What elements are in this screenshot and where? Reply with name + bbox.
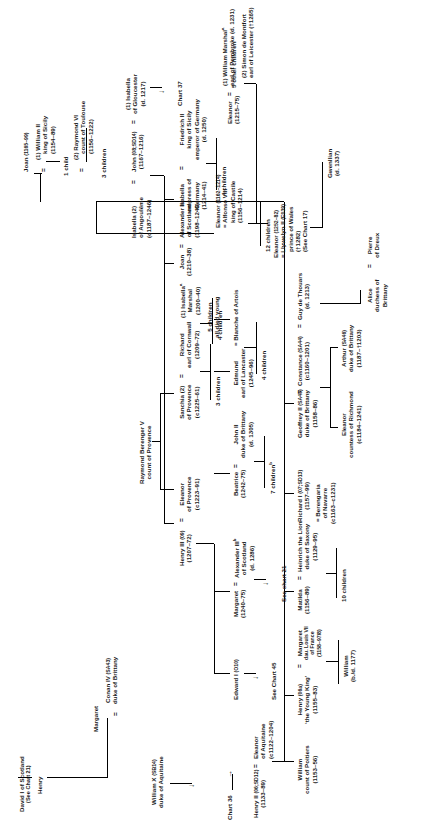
label-5-children-died-young: 5 children all died young (206, 296, 221, 338)
marriage-equals: = (366, 264, 373, 268)
marriage-equals: = (296, 576, 303, 580)
node-isabella-angouleme: Isabella (2) of Angoulême (c1187–1246) (130, 197, 152, 238)
connector (164, 523, 174, 524)
marriage-equals: = (112, 712, 119, 716)
down-arrow-icon: ↓ (252, 676, 260, 680)
node-raymond-vi: (2) Raymond VI count of Toulouse (1156–1… (72, 101, 94, 160)
marriage-equals: = (40, 168, 47, 172)
connector (260, 202, 261, 246)
marriage-equals: = (232, 582, 239, 586)
node-joan-sicily: Joan (1165–99) (22, 132, 29, 172)
connector (244, 83, 256, 84)
connector (336, 548, 337, 598)
node-isabella-germany: Isabella empress of Germany (1214–41) (178, 179, 207, 212)
sibling-bar (160, 394, 161, 490)
sibling-bar (330, 348, 331, 428)
node-isabella-gloucester: (1) Isabella of Gloucester (d. 1217) (124, 74, 146, 114)
node-john-ii-brittany: John II duke of Brittany (d. 1305) (232, 411, 254, 458)
connector (326, 573, 336, 574)
connector (150, 175, 164, 176)
connector (210, 344, 211, 400)
node-berengaria: = Berengaria of Navarre (c1163–c1231) (314, 482, 336, 524)
node-simon-de-montfort: (2) Simon de Montfort earl of Leicester … (240, 7, 255, 78)
node-conan-iv: Conan IV (SA43) duke of Brittany (104, 657, 119, 704)
node-henry-son-david: Henry (36, 776, 43, 794)
connector (216, 138, 217, 190)
connector (160, 393, 174, 394)
connector (46, 161, 60, 162)
node-margaret-conan: Margaret (92, 706, 99, 732)
node-henry-iii: Henry III (09) (1207–72) (178, 531, 193, 566)
connector (284, 403, 294, 404)
connector (310, 227, 322, 228)
connector (320, 387, 330, 388)
node-heinrich-lion: Heinrich the Lion duke of Saxony (1129–9… (296, 521, 318, 572)
down-arrow-icon: ↓ (158, 90, 166, 94)
node-pierre-dreux: Pierre of Dreux (366, 233, 381, 258)
label-3-children-sanchia: 3 children (214, 377, 221, 406)
connector (47, 777, 107, 778)
connector (254, 579, 266, 580)
connector (326, 661, 338, 662)
genealogy-chart: David I of Scotland (See Chart 21) Henry… (0, 0, 447, 824)
connector (152, 441, 160, 442)
node-william-poitiers: William count of Poitiers (1153–56) (296, 745, 318, 794)
connector (150, 87, 162, 88)
node-gwenllian: Gwenllian (d. 1337) (326, 149, 341, 178)
connector (330, 427, 338, 428)
connector (86, 128, 87, 162)
node-henry-young-king: Henry (06a) ‘the Young King’ (1155–83) (296, 675, 318, 724)
marriage-equals: = (296, 390, 303, 394)
node-eleanor-1252: Eleanor (1252–82) = Llywelyn II (E039) p… (272, 204, 309, 258)
connector (244, 347, 256, 348)
connector (284, 493, 294, 494)
node-henry-ii: Henry II (06;SD12) (1133–89) (252, 770, 267, 818)
node-arthur: Arthur (SA46) duke of Brittany (1187–†12… (340, 325, 362, 372)
node-friedrich-ii: Friedrich II king of Sicily emperor of G… (178, 99, 207, 160)
right-arrow-icon: → (226, 770, 234, 778)
connector (96, 202, 97, 234)
connector (214, 473, 230, 474)
node-blanche-artois: = Blanche of Artois (232, 290, 239, 346)
connector (254, 461, 264, 462)
sibling-bar (256, 84, 257, 224)
connector (272, 761, 284, 762)
node-david-i: David I of Scotland (See Chart 21) (18, 756, 32, 812)
label-5-other-children: 5 other children (230, 42, 237, 88)
ref-chart-21-alexander[interactable]: See chart 21 (280, 566, 287, 602)
down-arrow-icon: ↓ (188, 784, 196, 788)
connector (320, 303, 360, 304)
connector (284, 761, 294, 762)
connector (256, 223, 268, 224)
node-sanchia: Sanchia (2) of Provence (c1225–61) (178, 385, 200, 420)
connector (284, 695, 294, 696)
connector (206, 163, 216, 164)
marriage-equals: = (78, 168, 85, 172)
node-matilda: Matilda (1156–89) (296, 586, 311, 614)
connector (322, 162, 323, 228)
node-eleanor-aquitaine: Eleanor of Aquitaine (c1122–1204) (252, 721, 274, 759)
node-geoffrey-ii: Geoffrey II (SA45) duke of Brittany (115… (296, 389, 318, 438)
marriage-equals: = (296, 664, 303, 668)
connector (18, 777, 32, 778)
node-richard-cornwall: Richard earl of Cornwall (1209–72) (178, 322, 200, 368)
node-margaret-1240: Margaret (1240–75) (232, 590, 247, 618)
marriage-equals: = (178, 244, 185, 248)
node-guy-de-thouars: Guy de Thouars (d. 1213) (296, 273, 311, 320)
connector (330, 347, 338, 348)
node-alexander-iii: Alexander IIIb of Scotland (d. 1286) (232, 539, 255, 578)
label-1-child: 1 child (62, 156, 69, 176)
label-7-children: 7 childrenb (268, 462, 276, 494)
sibling-bar (284, 202, 285, 762)
node-isabella-marshal: (1) Isabellaa Marshal (1200–40) (178, 284, 201, 318)
node-beatrice: Beatrice (1242–75) (232, 470, 247, 498)
ref-chart-45[interactable]: See Chart 45 (270, 663, 277, 701)
node-edmund-lancaster: Edmund earl of Lancaster (1245–96) (232, 348, 254, 398)
marriage-equals: = (178, 374, 185, 378)
node-eleanor-provence: Eleanor of Provence (c1223–91) (178, 477, 200, 512)
down-arrow-icon: ↓ (262, 582, 270, 586)
connector (40, 174, 41, 202)
connector (338, 640, 339, 684)
connector (214, 673, 230, 674)
ref-chart-36[interactable]: Chart 36 (226, 795, 233, 820)
